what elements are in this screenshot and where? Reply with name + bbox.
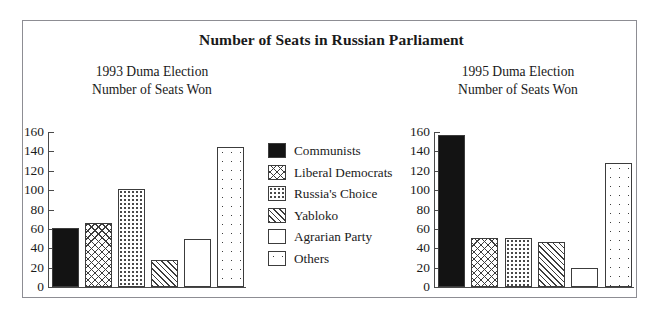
legend-item: Russia's Choice [268,183,398,205]
bar-others [217,147,244,287]
right-panel-title: 1995 Duma Election Number of Seats Won [408,63,628,99]
legend-item-label: Others [294,252,329,265]
legend-item: Communists [268,140,398,162]
legend-item: Yabloko [268,205,398,227]
legend-swatch-dots-sparse [268,251,286,266]
right-panel-title-line2: Number of Seats Won [408,81,628,99]
bar-russia-s-choice [118,189,145,287]
bar-slot [115,132,148,287]
bar-agrarian-party [184,239,211,287]
left-panel-title: 1993 Duma Election Number of Seats Won [42,63,262,99]
legend-item: Agrarian Party [268,226,398,248]
legend-swatch-dots-fine [268,186,286,201]
legend-item-label: Communists [294,144,361,157]
y-tick-label: 160 [410,125,430,138]
y-tick-label: 100 [24,183,44,196]
y-tick-label: 20 [417,261,430,274]
y-tick-mark [49,287,54,288]
right-chart-bars [435,132,635,287]
y-tick-label: 120 [24,164,44,177]
bar-slot [601,132,634,287]
left-chart-plot: 020406080100120140160 [14,132,250,288]
bar-communists [52,228,79,287]
y-tick-label: 140 [24,145,44,158]
bar-liberal-democrats [85,223,112,287]
y-tick-label: 40 [417,242,430,255]
y-tick-label: 60 [417,222,430,235]
bar-slot [502,132,535,287]
y-tick-label: 60 [31,222,44,235]
left-panel-title-line2: Number of Seats Won [42,81,262,99]
y-tick-label: 20 [31,261,44,274]
right-panel-title-line1: 1995 Duma Election [462,64,575,79]
right-x-axis-line [434,287,634,288]
y-tick-label: 120 [410,164,430,177]
legend-swatch-crosshatch [268,165,286,180]
y-tick-mark [435,287,440,288]
bar-russia-s-choice [505,238,532,287]
legend-swatch-empty [268,229,286,244]
legend-item: Others [268,248,398,270]
legend-swatch-solid [268,143,286,158]
bar-yabloko [151,260,178,287]
y-tick-label: 0 [423,280,430,293]
bar-slot [468,132,501,287]
bar-slot [181,132,214,287]
left-panel-title-line1: 1993 Duma Election [96,64,209,79]
y-tick-label: 140 [410,145,430,158]
bar-slot [435,132,468,287]
chart-legend: CommunistsLiberal DemocratsRussia's Choi… [268,140,398,269]
bar-slot [568,132,601,287]
y-tick-label: 100 [410,183,430,196]
legend-item-label: Yabloko [294,209,338,222]
bar-slot [214,132,247,287]
right-chart-plot: 020406080100120140160 [400,132,636,288]
legend-item-label: Liberal Democrats [294,166,393,179]
chart-figure: Number of Seats in Russian Parliament 19… [0,0,663,317]
legend-swatch-diagonal [268,208,286,223]
bar-slot [148,132,181,287]
y-tick-label: 0 [37,280,44,293]
bar-yabloko [538,242,565,287]
legend-item: Liberal Democrats [268,162,398,184]
page-title: Number of Seats in Russian Parliament [0,31,663,49]
legend-item-label: Russia's Choice [294,187,377,200]
bar-agrarian-party [571,268,598,287]
bar-others [605,163,632,287]
bar-slot [82,132,115,287]
left-x-axis-line [48,287,246,288]
left-chart-bars [49,132,247,287]
y-tick-label: 160 [24,125,44,138]
bar-liberal-democrats [471,238,498,287]
y-tick-label: 80 [417,203,430,216]
bar-communists [438,135,465,287]
bar-slot [49,132,82,287]
bar-slot [535,132,568,287]
y-tick-label: 80 [31,203,44,216]
y-tick-label: 40 [31,242,44,255]
legend-item-label: Agrarian Party [294,230,372,243]
